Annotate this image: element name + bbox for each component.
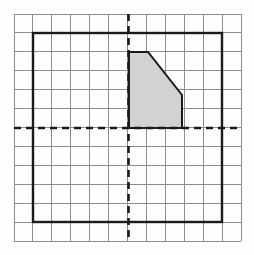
coordinate-grid-figure [0, 0, 254, 255]
figure-container [0, 0, 254, 255]
